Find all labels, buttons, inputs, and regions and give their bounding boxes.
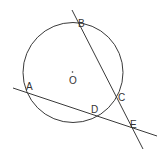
label-B: B [78,18,85,29]
center-dot [72,71,74,73]
geometry-diagram: B O A C D E [0,0,164,157]
label-D: D [91,104,98,115]
label-A: A [26,81,33,92]
label-C: C [118,92,125,103]
label-E: E [130,119,137,130]
label-O: O [69,75,77,86]
